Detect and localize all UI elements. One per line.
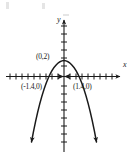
parabola-curve-left (32, 61, 65, 143)
x-intercept-left-label: (-1.4,0) (21, 82, 42, 91)
x-axis-label: x (123, 60, 127, 69)
x-intercept-right-label: (1.4,0) (73, 82, 92, 91)
parabola-curve (64, 61, 97, 143)
y-axis-label: y (57, 15, 61, 24)
parabola-figure: (0,2) (-1.4,0) (1.4,0) y x (0, 0, 135, 159)
vertex-label: (0,2) (36, 52, 49, 61)
coordinate-plot (0, 0, 135, 159)
y-axis-group (61, 20, 67, 152)
